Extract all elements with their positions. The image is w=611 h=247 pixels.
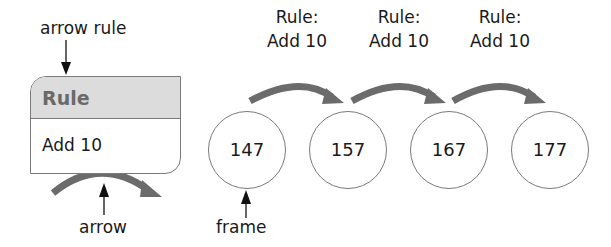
frame-circle: 147 [208, 111, 286, 189]
frame-circle: 167 [410, 111, 488, 189]
frame-circle: 157 [309, 111, 387, 189]
frame-circle: 177 [511, 111, 589, 189]
arrow-rule-annotation: arrow rule [40, 18, 126, 38]
rule-label: Rule: Add 10 [450, 5, 550, 53]
rule-box: Rule Add 10 [30, 76, 181, 174]
rule-label-line1: Rule: [247, 5, 347, 29]
arrow-annotation: arrow [79, 217, 127, 237]
rule-label-line2: Add 10 [450, 29, 550, 53]
rule-label: Rule: Add 10 [247, 5, 347, 53]
rule-box-header: Rule [31, 77, 180, 119]
rule-label-line1: Rule: [349, 5, 449, 29]
frame-annotation: frame [216, 217, 266, 237]
rule-label: Rule: Add 10 [349, 5, 449, 53]
rule-label-line2: Add 10 [349, 29, 449, 53]
rule-box-body: Add 10 [31, 119, 180, 171]
rule-label-line1: Rule: [450, 5, 550, 29]
rule-label-line2: Add 10 [247, 29, 347, 53]
